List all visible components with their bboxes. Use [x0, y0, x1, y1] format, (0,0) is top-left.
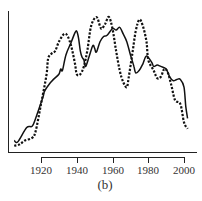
x-tick-label-1960: 1960: [102, 164, 124, 176]
dotted-series-line: [14, 17, 187, 146]
x-tick-label-1940: 1940: [66, 164, 88, 176]
figure-caption: (b): [97, 177, 112, 193]
solid-series-line: [14, 27, 187, 142]
x-tick-label-1980: 1980: [137, 164, 159, 176]
x-tick-label-2000: 2000: [173, 164, 195, 176]
x-tick-axis: [41, 157, 185, 163]
x-tick-label-1920: 1920: [30, 164, 52, 176]
